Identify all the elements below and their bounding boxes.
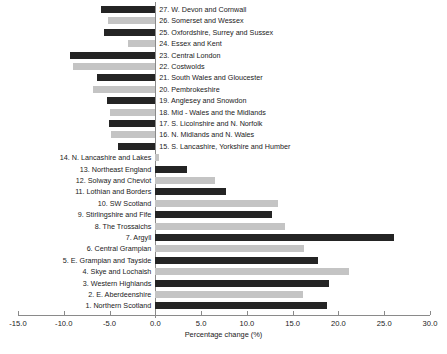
x-axis-tick [293,311,294,315]
x-axis-tick-label: -10.0 [55,319,72,328]
x-axis-tick [384,311,385,315]
x-axis-tick-label: 0.0 [150,319,161,328]
x-axis-tick [155,311,156,315]
x-axis-tick [18,311,19,315]
x-axis-tick-label: 10.0 [239,319,254,328]
x-axis-tick [338,311,339,315]
x-axis-tick [247,311,248,315]
x-axis-tick-label: 20.0 [331,319,346,328]
x-axis-tick [64,311,65,315]
x-axis-tick-label: -5.0 [103,319,116,328]
x-axis-tick-label: 25.0 [377,319,392,328]
x-axis-tick-label: 15.0 [285,319,300,328]
x-axis: -15.0-10.0-5.00.05.010.015.020.025.030.0 [0,0,447,318]
x-axis-line [18,315,430,316]
bar-chart: 27. W. Devon and Cornwall26. Somerset an… [0,0,447,354]
x-axis-tick-label: 5.0 [196,319,207,328]
x-axis-tick-label: -15.0 [9,319,26,328]
x-axis-tick [110,311,111,315]
x-axis-tick [201,311,202,315]
x-axis-title: Percentage change (%) [0,330,447,339]
x-axis-tick-label: 30.0 [423,319,438,328]
x-axis-tick [430,311,431,315]
